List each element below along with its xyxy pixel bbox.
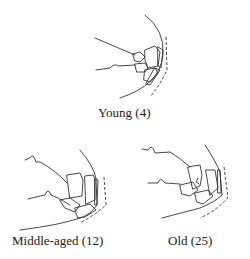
diagram-canvas <box>0 0 250 259</box>
middle-tooth-1 <box>67 173 83 198</box>
old-label: Old (25) <box>168 233 212 249</box>
young-drawing <box>95 15 167 98</box>
old-tooth-2 <box>206 170 218 195</box>
middle-aged-label: Middle-aged (12) <box>12 233 103 249</box>
young-tooth-4 <box>135 63 148 72</box>
old-crack <box>196 178 199 184</box>
middle-tooth-2 <box>85 175 95 204</box>
old-tooth-5 <box>195 190 213 204</box>
old-dashed-outline <box>200 167 228 218</box>
young-upper-line <box>95 38 135 55</box>
old-lower-line <box>148 180 180 185</box>
young-jaw-curve <box>120 15 163 98</box>
middle-lower-line <box>28 191 70 205</box>
old-upper-line <box>142 147 190 167</box>
old-tooth-3 <box>218 170 221 193</box>
middle-aged-drawing <box>20 150 106 230</box>
young-label: Young (4) <box>98 105 151 121</box>
young-lower-line <box>96 65 135 70</box>
middle-upper-line <box>25 156 67 183</box>
old-drawing <box>142 145 228 218</box>
old-jaw-curve <box>162 145 222 218</box>
young-tooth-1 <box>133 52 145 62</box>
